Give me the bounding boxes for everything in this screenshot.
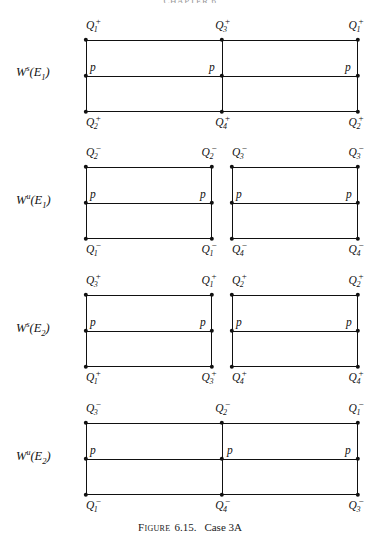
row-label-ws-e1: Ws(E1)	[16, 64, 50, 82]
row-label-open: (E	[30, 65, 42, 79]
vertex-dot	[230, 365, 234, 369]
node-label-wu-e1-left-top-right: Q2−	[202, 147, 219, 159]
row-label-w: W	[16, 321, 26, 335]
q-superscript: +	[211, 368, 216, 378]
q-superscript: +	[358, 16, 363, 26]
p-marker-wu-e2-left: p	[90, 445, 96, 457]
vertex-dot	[220, 110, 224, 114]
row-label-close: )	[46, 449, 50, 463]
vertex-dot	[220, 493, 224, 497]
row-label-close: )	[46, 193, 50, 207]
q-superscript: −	[358, 240, 363, 250]
vertex-dot	[356, 201, 360, 205]
vertex-dot	[210, 165, 214, 169]
row-label-w: W	[16, 193, 26, 207]
vertex-dot	[356, 457, 360, 461]
node-label-ws-e1-top-mid: Q3+	[215, 20, 232, 32]
vertex-dot	[356, 329, 360, 333]
q-superscript: +	[225, 113, 230, 123]
node-label-ws-e1-bottom-left: Q2+	[86, 117, 103, 129]
row-label-close: )	[46, 321, 50, 335]
row-label-wu-e1: Wu(E1)	[16, 192, 51, 210]
node-label-ws-e2-right-bottom-right: Q4+	[349, 372, 366, 384]
box-ws-e2-left-midline	[86, 331, 212, 332]
q-superscript: −	[211, 143, 216, 153]
vertex-dot	[210, 329, 214, 333]
node-label-wu-e2-top-right: Q1−	[349, 403, 366, 415]
node-label-wu-e1-right-bottom-right: Q4−	[349, 244, 366, 256]
vertex-dot	[230, 237, 234, 241]
node-label-wu-e2-top-left: Q3−	[86, 403, 103, 415]
p-marker-ws-e1-right: p	[345, 62, 351, 74]
node-label-ws-e2-right-top-left: Q2+	[232, 275, 249, 287]
row-label-wu-e2: Wu(E2)	[16, 448, 51, 466]
caption-label: Figure	[138, 521, 170, 533]
p-marker-wu-e1-right-left: p	[236, 189, 242, 201]
q-superscript: −	[225, 496, 230, 506]
q-superscript: +	[96, 368, 101, 378]
p-marker-wu-e1-left-right: p	[200, 189, 206, 201]
node-label-ws-e2-right-top-right: Q2+	[349, 275, 366, 287]
node-label-wu-e2-bottom-right: Q3−	[349, 500, 366, 512]
vertex-dot	[356, 421, 360, 425]
row-label-open: (E	[30, 321, 42, 335]
box-wu-e1-left-midline	[86, 203, 212, 204]
q-superscript: −	[211, 240, 216, 250]
node-label-ws-e1-bottom-mid: Q4+	[215, 117, 232, 129]
q-superscript: −	[242, 240, 247, 250]
q-superscript: −	[225, 399, 230, 409]
p-marker-wu-e1-left-left: p	[90, 189, 96, 201]
node-label-ws-e1-top-right: Q1+	[349, 20, 366, 32]
q-superscript: +	[96, 113, 101, 123]
figure-caption: Figure6.15.Case 3A	[0, 521, 380, 533]
node-label-ws-e2-left-top-left: Q3+	[86, 275, 103, 287]
q-superscript: −	[96, 240, 101, 250]
node-label-wu-e1-right-bottom-left: Q4−	[232, 244, 249, 256]
node-label-ws-e1-top-left: Q1+	[86, 20, 103, 32]
row-label-w: W	[16, 65, 26, 79]
box-ws-e2-right-midline	[232, 331, 358, 332]
row-label-open: (E	[30, 449, 42, 463]
node-label-ws-e2-left-bottom-left: Q1+	[86, 372, 103, 384]
node-label-wu-e2-bottom-left: Q1−	[86, 500, 103, 512]
q-superscript: −	[96, 399, 101, 409]
q-superscript: +	[358, 271, 363, 281]
row-label-close: )	[46, 65, 50, 79]
q-superscript: +	[211, 271, 216, 281]
caption-number: 6.15.	[174, 521, 196, 533]
figure-case-3a: CHAPTER 6 Ws(E1) Q1+ Q3+ Q1+ Q2+ Q4+ Q2+…	[0, 0, 380, 546]
caption-title: Case 3A	[204, 521, 242, 533]
row-label-open: (E	[30, 193, 42, 207]
row-label-w: W	[16, 449, 26, 463]
node-label-ws-e1-bottom-right: Q2+	[349, 117, 366, 129]
p-marker-wu-e2-mid: p	[227, 445, 233, 457]
q-superscript: −	[358, 496, 363, 506]
p-marker-ws-e2-right-right: p	[346, 317, 352, 329]
q-superscript: −	[358, 143, 363, 153]
vertex-dot	[210, 201, 214, 205]
p-marker-ws-e2-left-left: p	[90, 317, 96, 329]
vertex-dot	[84, 237, 88, 241]
vertex-dot	[84, 365, 88, 369]
box-wu-e1-right-midline	[232, 203, 358, 204]
vertex-dot	[210, 293, 214, 297]
p-marker-ws-e2-left-right: p	[200, 317, 206, 329]
p-marker-wu-e2-right: p	[345, 445, 351, 457]
node-label-ws-e2-left-bottom-right: Q3+	[202, 372, 219, 384]
q-superscript: −	[96, 496, 101, 506]
node-label-wu-e1-right-top-right: Q3−	[349, 147, 366, 159]
node-label-wu-e1-left-bottom-left: Q1−	[86, 244, 103, 256]
p-marker-ws-e1-left: p	[90, 62, 96, 74]
q-superscript: +	[96, 271, 101, 281]
node-label-wu-e1-right-top-left: Q3−	[232, 147, 249, 159]
q-superscript: +	[358, 113, 363, 123]
q-superscript: +	[96, 16, 101, 26]
vertex-dot	[84, 493, 88, 497]
node-label-wu-e2-bottom-mid: Q4−	[215, 500, 232, 512]
q-superscript: +	[225, 16, 230, 26]
q-superscript: +	[242, 368, 247, 378]
q-superscript: +	[242, 271, 247, 281]
q-superscript: −	[242, 143, 247, 153]
row-label-ws-e2: Ws(E2)	[16, 320, 50, 338]
page-header-remnant: CHAPTER 6	[0, 0, 380, 3]
